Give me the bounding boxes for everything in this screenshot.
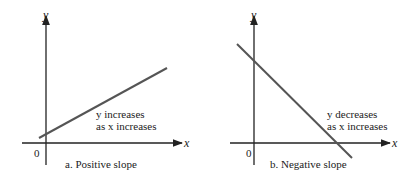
origin-label: 0	[246, 147, 252, 159]
caption: a. Positive slope	[65, 158, 137, 170]
annotation-line1: y increases	[96, 108, 145, 120]
annotation-line1: y decreases	[327, 108, 377, 120]
caption: b. Negative slope	[270, 158, 347, 170]
annotation-line2: as x increases	[327, 120, 387, 132]
x-axis-label: x	[391, 136, 398, 150]
origin-label: 0	[34, 147, 40, 159]
y-axis-label: y	[42, 8, 49, 22]
panel-positive-slope: y x 0 y increases as x increases a. Posi…	[22, 8, 190, 170]
panel-negative-slope: y x 0 y decreases as x increases b. Nega…	[230, 8, 398, 170]
x-axis-label: x	[183, 136, 190, 150]
slope-diagram: y x 0 y increases as x increases a. Posi…	[0, 0, 407, 183]
annotation-line2: as x increases	[96, 120, 156, 132]
y-axis-label: y	[250, 8, 257, 22]
